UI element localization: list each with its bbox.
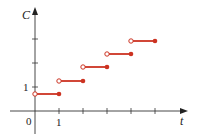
- open-dot-icon: [129, 39, 133, 43]
- step-function-chart: C t 0 1 1: [0, 0, 200, 138]
- y-axis-label: C: [22, 8, 31, 22]
- closed-dot-icon: [105, 65, 110, 70]
- closed-endpoints: [57, 39, 158, 97]
- y-axis-arrow-icon: [32, 7, 38, 15]
- open-endpoints: [33, 39, 133, 96]
- closed-dot-icon: [129, 52, 134, 57]
- open-dot-icon: [57, 79, 61, 83]
- closed-dot-icon: [153, 39, 158, 44]
- axes: [10, 12, 183, 134]
- origin-label: 0: [26, 115, 32, 127]
- y-tick-label-1: 1: [23, 81, 29, 93]
- x-tick-label-1: 1: [56, 116, 62, 128]
- step-series: [37, 41, 155, 94]
- closed-dot-icon: [81, 79, 86, 84]
- x-axis-label: t: [180, 114, 184, 128]
- open-dot-icon: [105, 52, 109, 56]
- open-dot-icon: [33, 92, 37, 96]
- open-dot-icon: [81, 65, 85, 69]
- closed-dot-icon: [57, 92, 62, 97]
